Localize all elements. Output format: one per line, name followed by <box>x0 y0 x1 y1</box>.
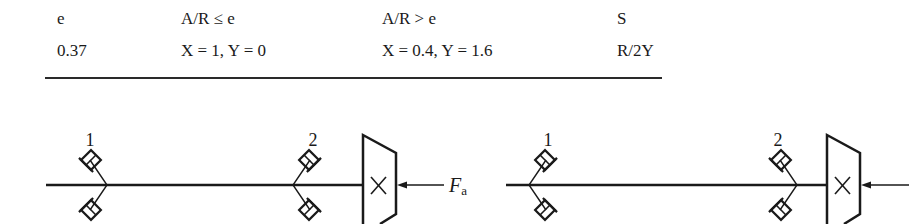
axial-force-label: Fa <box>448 174 467 198</box>
bevel-gear-icon <box>827 135 860 224</box>
left-diagram: 1 2 Fa <box>46 130 467 224</box>
axial-force-arrow-icon <box>397 182 444 189</box>
bearing-diagrams: 1 2 Fa 1 <box>0 0 909 224</box>
bearing-2-label: 2 <box>774 130 783 150</box>
right-diagram: 1 2 <box>506 130 909 224</box>
bearing-2-label: 2 <box>309 130 318 150</box>
axial-force-arrow-icon <box>861 182 909 189</box>
bevel-gear-icon <box>363 135 396 224</box>
bearing-1-label: 1 <box>544 130 553 150</box>
bearing-1-label: 1 <box>86 130 95 150</box>
